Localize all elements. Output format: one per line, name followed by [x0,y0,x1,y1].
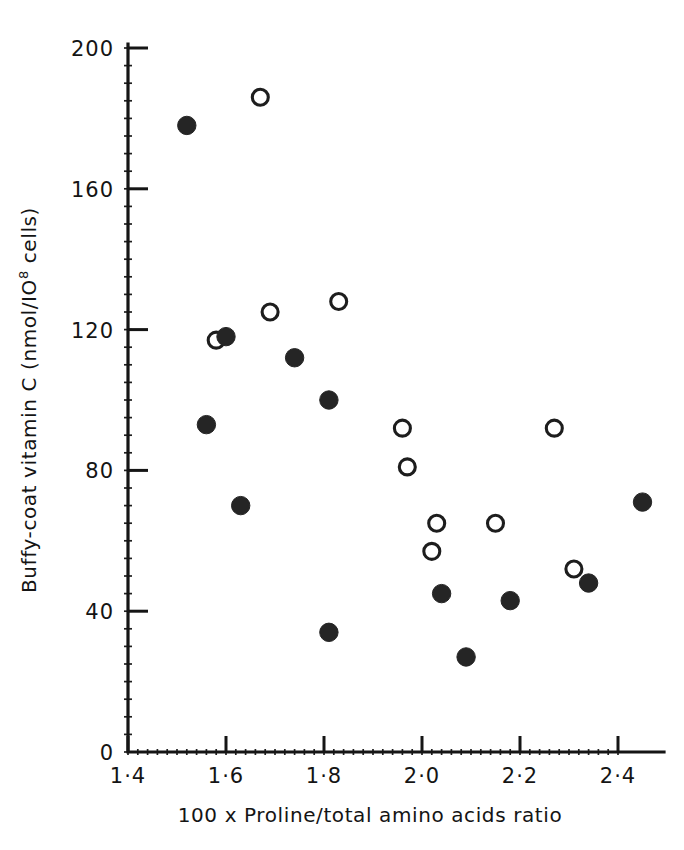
data-point-filled [457,648,475,666]
data-point-filled [232,496,250,514]
y-tick-label: 40 [85,600,114,624]
data-point-open [331,293,347,309]
data-series-filled-circles [178,116,652,666]
data-series-open-circles [208,89,582,577]
data-point-filled [217,327,235,345]
y-tick-label: 0 [100,741,114,765]
x-axis-title: 100 x Proline/total amino acids ratio [178,803,563,827]
data-point-open [566,561,582,577]
axis-frame [128,44,664,752]
data-point-open [488,515,504,531]
x-tick-label: 2·2 [502,764,538,788]
x-tick-label: 2·0 [404,764,440,788]
data-point-filled [285,349,303,367]
data-point-open [394,420,410,436]
data-point-open [262,304,278,320]
data-point-open [399,459,415,475]
plot-canvas: 04080120160200 1·41·61·82·02·22·4 Buffy-… [0,0,684,850]
y-tick-label: 120 [71,319,114,343]
data-point-open [546,420,562,436]
y-tick-label: 80 [85,459,114,483]
y-axis-tick-labels: 04080120160200 [71,37,114,765]
data-point-filled [178,116,196,134]
y-axis-major-ticks [128,48,148,611]
data-point-filled [320,391,338,409]
data-point-open [424,543,440,559]
data-point-filled [579,574,597,592]
x-tick-label: 2·4 [600,764,636,788]
data-point-filled [320,623,338,641]
data-point-filled [197,415,215,433]
y-tick-label: 160 [71,178,114,202]
data-point-filled [633,493,651,511]
y-tick-label: 200 [71,37,114,61]
x-tick-label: 1·6 [208,764,244,788]
x-tick-label: 1·8 [306,764,342,788]
data-point-open [429,515,445,531]
data-point-open [252,89,268,105]
y-axis-title: Buffy-coat vitamin C (nmol/IO8 cells) [16,207,41,593]
x-axis-tick-labels: 1·41·61·82·02·22·4 [110,764,636,788]
data-point-filled [501,591,519,609]
data-point-filled [432,584,450,602]
scatter-plot-figure: 04080120160200 1·41·61·82·02·22·4 Buffy-… [0,0,684,850]
x-tick-label: 1·4 [110,764,146,788]
